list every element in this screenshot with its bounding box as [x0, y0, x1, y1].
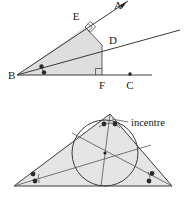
label-f: F: [99, 79, 105, 91]
label-c: C: [126, 79, 133, 91]
upper-shaded-region: [17, 27, 102, 75]
incentre-point: [103, 151, 106, 154]
label-a: A: [114, 0, 122, 11]
geometry-figure-root: A B C D E F: [0, 0, 187, 203]
upper-diagram-group: A B C D E F: [8, 0, 180, 91]
angle-dot-b-upper: [39, 64, 43, 68]
label-e: E: [73, 10, 80, 22]
geometry-canvas: A B C D E F: [0, 0, 187, 203]
angle-dot-right-lower: [147, 179, 152, 184]
angle-dot-b-lower: [42, 70, 46, 74]
label-d: D: [109, 34, 117, 46]
angle-dot-top-right: [113, 122, 118, 127]
angle-dot-top-left: [102, 122, 107, 127]
lower-diagram-group: incentre: [14, 114, 172, 186]
angle-dot-left-lower: [33, 179, 38, 184]
label-b: B: [8, 69, 15, 81]
point-dot-c: [128, 72, 131, 75]
angle-dot-right-upper: [150, 171, 155, 176]
angle-dot-left-upper: [31, 172, 36, 177]
incentre-caption: incentre: [131, 117, 165, 128]
